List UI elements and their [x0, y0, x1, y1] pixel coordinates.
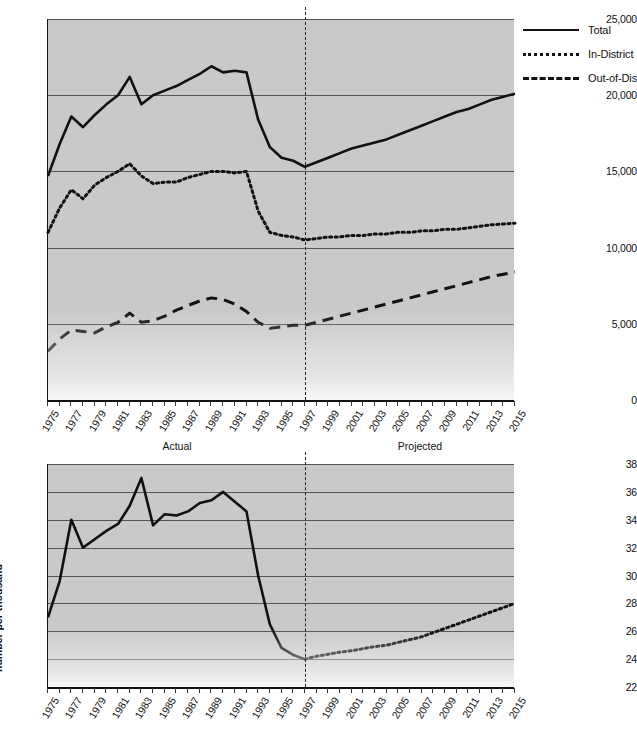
x-tick: [129, 401, 130, 406]
x-tick: [152, 688, 153, 693]
x-tick: [70, 401, 71, 406]
x-tick: [304, 401, 305, 406]
y-tick-label: 20,000: [593, 90, 637, 100]
series-line-forecast: [305, 603, 515, 659]
x-tick: [152, 401, 153, 406]
x-tick: [456, 401, 457, 406]
x-tick: [59, 688, 60, 693]
x-tick: [444, 688, 445, 693]
x-tick: [117, 401, 118, 406]
x-tick: [432, 688, 433, 693]
x-tick: [82, 401, 83, 406]
line-dashed-icon: [523, 73, 579, 83]
y-tick-label: 26: [593, 626, 637, 636]
x-tick: [222, 401, 223, 406]
x-tick: [362, 401, 363, 406]
x-tick: [210, 401, 211, 406]
x-tick: [374, 688, 375, 693]
x-tick: [444, 401, 445, 406]
legend-label: In-District: [588, 48, 633, 60]
x-tick: [140, 688, 141, 693]
x-tick: [456, 688, 457, 693]
x-tick: [316, 688, 317, 693]
x-tick: [94, 688, 95, 693]
series-line-in-district: [48, 164, 515, 240]
x-tick: [351, 401, 352, 406]
x-tick: [187, 401, 188, 406]
x-tick: [257, 688, 258, 693]
figure-root: 25,00020,00015,00010,0005,0000 197519771…: [0, 0, 637, 731]
projection-divider: [305, 7, 306, 400]
y-tick-label: 34: [593, 515, 637, 525]
x-tick: [374, 401, 375, 406]
x-tick: [362, 688, 363, 693]
x-tick: [269, 401, 270, 406]
projection-divider: [305, 452, 306, 687]
legend-top: TotalIn-DistrictOut-of-District: [523, 18, 637, 90]
x-tick: [502, 401, 503, 406]
x-tick: [514, 401, 515, 406]
x-tick: [409, 401, 410, 406]
x-tick: [292, 401, 293, 406]
chart-bottom: 383634323028262422 197519771979198119831…: [0, 455, 637, 731]
x-tick: [479, 401, 480, 406]
phase-label-actual-top: Actual: [47, 440, 307, 452]
x-tick: [386, 688, 387, 693]
y-tick-label: 5,000: [593, 319, 637, 329]
y-tick-label: 32: [593, 543, 637, 553]
series-lines-bottom: [48, 464, 515, 687]
chart-top: 25,00020,00015,00010,0005,0000 197519771…: [0, 0, 637, 455]
x-tick: [94, 401, 95, 406]
x-tick: [502, 688, 503, 693]
x-tick: [47, 688, 48, 693]
x-tick: [129, 688, 130, 693]
y-tick-label: 38: [593, 459, 637, 469]
y-axis-title-bottom: number per thousand: [0, 564, 4, 672]
x-tick: [397, 688, 398, 693]
x-tick: [246, 688, 247, 693]
phase-label-projected-top: Projected: [320, 440, 520, 452]
x-tick: [164, 401, 165, 406]
series-lines-top: [48, 19, 515, 400]
x-tick: [234, 688, 235, 693]
x-tick: [432, 401, 433, 406]
x-tick: [70, 688, 71, 693]
x-tick: [397, 401, 398, 406]
x-tick: [210, 688, 211, 693]
y-tick-label: 22: [593, 682, 637, 692]
legend-label: Total: [588, 24, 611, 36]
x-tick: [175, 688, 176, 693]
x-tick: [281, 401, 282, 406]
x-tick: [491, 688, 492, 693]
x-tick: [327, 401, 328, 406]
x-tick: [514, 688, 515, 693]
legend-item: Total: [523, 18, 637, 42]
x-tick: [386, 401, 387, 406]
line-dotted-icon: [523, 49, 579, 59]
y-tick-label: 10,000: [593, 243, 637, 253]
y-tick-label: 28: [593, 598, 637, 608]
x-tick: [479, 688, 480, 693]
x-tick: [304, 688, 305, 693]
x-tick: [292, 688, 293, 693]
x-tick: [199, 688, 200, 693]
x-tick: [164, 688, 165, 693]
x-tick: [175, 401, 176, 406]
y-tick-label: 30: [593, 571, 637, 581]
series-line-actual: [48, 478, 305, 659]
x-tick: [105, 401, 106, 406]
legend-item: In-District: [523, 42, 637, 66]
series-line-out-of-district: [48, 272, 515, 351]
legend-item: Out-of-District: [523, 66, 637, 90]
y-tick-label: 0: [593, 395, 637, 405]
x-tick: [421, 401, 422, 406]
x-tick: [421, 688, 422, 693]
x-tick: [351, 688, 352, 693]
series-line-total: [48, 66, 515, 176]
x-tick: [409, 688, 410, 693]
x-tick: [467, 401, 468, 406]
x-tick: [187, 688, 188, 693]
plot-area-bottom: [47, 464, 514, 687]
x-tick: [117, 688, 118, 693]
x-tick: [467, 688, 468, 693]
